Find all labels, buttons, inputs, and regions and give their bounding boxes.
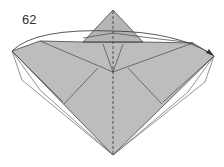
origami-diagram xyxy=(0,0,224,167)
